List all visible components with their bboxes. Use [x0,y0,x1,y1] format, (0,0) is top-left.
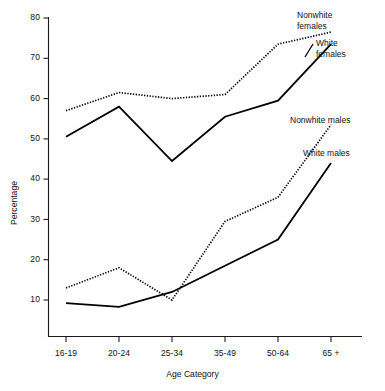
series-label-nonwhite-females-line1: Nonwhite [297,10,332,21]
x-tick-label-20-24: 20-24 [94,348,144,358]
y-tick-label-70: 70 [14,52,40,62]
series-line-white-males [66,163,331,307]
y-axis-title: Percentage [9,181,19,225]
y-tick-label-10: 10 [14,294,40,304]
y-tick-marks [44,18,49,300]
series-line-white-females-path [66,44,331,161]
x-tick-label-50-64: 50-64 [253,348,303,358]
x-axis-title: Age Category [0,369,385,379]
x-tick-label-65-plus: 65 + [306,348,356,358]
line-chart: 80 70 60 50 40 30 20 10 16-19 20-24 25-3… [0,0,385,391]
series-label-nonwhite-males: Nonwhite males [290,115,350,126]
y-tick-label-60: 60 [14,93,40,103]
series-line-nonwhite-males-path [66,125,331,300]
x-tick-marks [66,337,331,343]
series-label-white-females-line1: White [316,38,346,49]
x-tick-label-25-34: 25-34 [147,348,197,358]
series-label-white-males: White males [303,148,350,159]
y-tick-label-80: 80 [14,12,40,22]
series-label-nonwhite-females: Nonwhite females [297,10,332,31]
series-line-nonwhite-females [66,32,331,111]
x-tick-label-16-19: 16-19 [41,348,91,358]
x-tick-label-35-49: 35-49 [200,348,250,358]
series-label-nonwhite-females-line2: females [297,21,332,32]
y-tick-label-20: 20 [14,254,40,264]
y-tick-label-50: 50 [14,133,40,143]
leader-line-white-females [305,44,313,57]
series-label-white-females: White females [316,38,346,59]
series-label-white-females-line2: females [316,49,346,60]
